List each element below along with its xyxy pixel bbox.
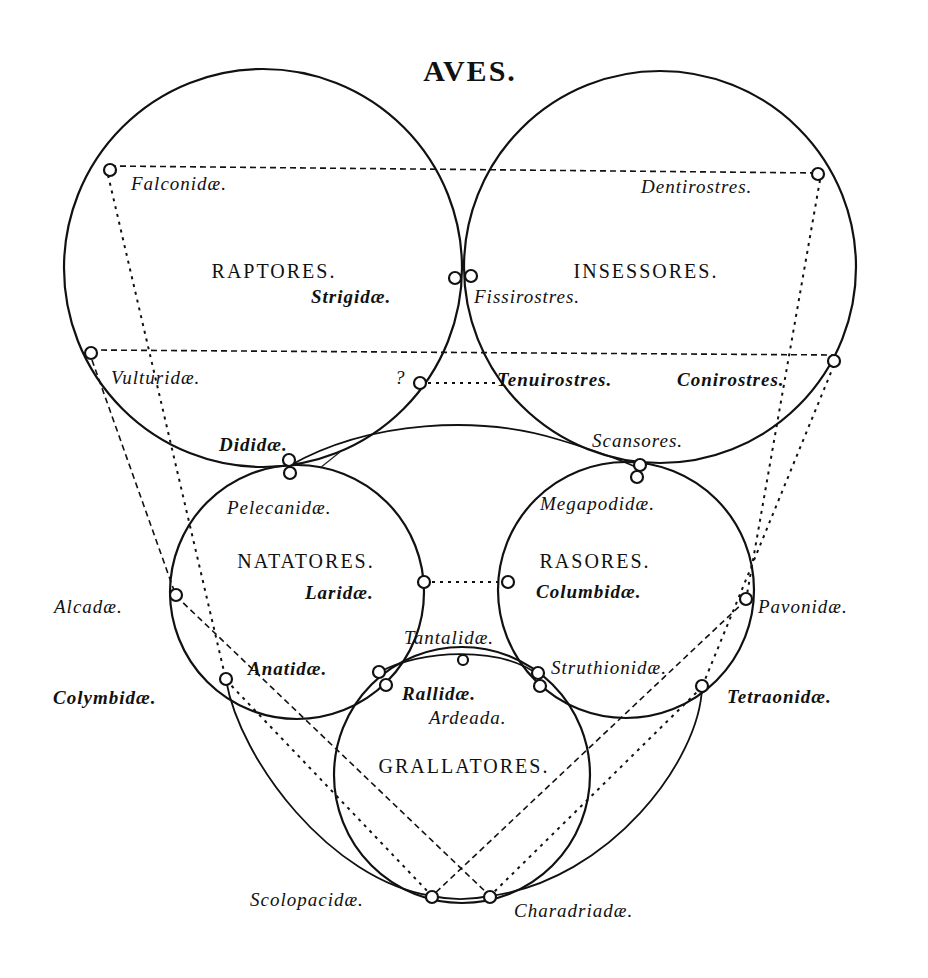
falconidae-dentirostres-line bbox=[110, 166, 818, 173]
colymbidae-node bbox=[220, 673, 232, 685]
label-megapodidae: Megapodidæ. bbox=[539, 493, 655, 514]
label-scansores: Scansores. bbox=[592, 430, 683, 451]
tetraonidae-charadriadae-arc bbox=[490, 687, 702, 896]
conirostres-tetraonidae-line bbox=[702, 365, 834, 687]
label-strigidae: Strigidæ. bbox=[311, 286, 391, 307]
vulturidae-node bbox=[85, 347, 97, 359]
label-scolopacidae: Scolopacidæ. bbox=[250, 889, 364, 910]
tantalidae-node bbox=[458, 655, 468, 665]
dentirostres-pavonidae-line bbox=[746, 180, 820, 600]
scolopacidae-node bbox=[426, 891, 438, 903]
diagram-title: AVES. bbox=[423, 54, 517, 87]
label-columbidae: Columbidæ. bbox=[536, 581, 642, 602]
conirostres-node bbox=[828, 355, 840, 367]
label-vulturidae: Vulturidæ. bbox=[111, 367, 200, 388]
label-conirostres: Conirostres. bbox=[677, 369, 785, 390]
order-raptores: RAPTORES. bbox=[212, 260, 337, 282]
alcadae-node bbox=[170, 589, 182, 601]
tetraonidae-charadriadae-line bbox=[490, 687, 702, 896]
struthionidae-node bbox=[532, 667, 544, 679]
label-dididae: Dididæ. bbox=[218, 434, 288, 455]
label-rallidae: Rallidæ. bbox=[401, 683, 476, 704]
order-insessores: INSESSORES. bbox=[574, 260, 719, 282]
label-tenuirostres: Tenuirostres. bbox=[497, 369, 612, 390]
dididae-scansores-arc bbox=[289, 425, 638, 468]
laridae-node bbox=[418, 576, 430, 588]
strigidae-node bbox=[449, 272, 461, 284]
pelecanidae-node bbox=[284, 467, 296, 479]
falconidae-node bbox=[104, 164, 116, 176]
label-ardeada: Ardeada. bbox=[427, 707, 506, 728]
label-alcadae: Alcadæ. bbox=[52, 596, 123, 617]
falconidae-colymbidae-line bbox=[108, 175, 226, 680]
question-node bbox=[414, 377, 426, 389]
rallidae-node bbox=[380, 679, 392, 691]
label-tantalidae: Tantalidæ. bbox=[404, 627, 494, 648]
megapodidae-node bbox=[631, 471, 643, 483]
label-struthionidae: Struthionidæ. bbox=[551, 657, 667, 678]
label-charadriadae: Charadriadæ. bbox=[514, 900, 633, 921]
label-fissirostres: Fissirostres. bbox=[473, 286, 580, 307]
order-natatores: NATATORES. bbox=[237, 550, 375, 572]
fissirostres-node bbox=[465, 270, 477, 282]
anatidae-node bbox=[373, 666, 385, 678]
label-colymbidae: Colymbidæ. bbox=[53, 687, 156, 708]
label-pavonidae: Pavonidæ. bbox=[757, 596, 848, 617]
vulturidae-alcadae-line bbox=[92, 360, 176, 596]
charadriadae-node bbox=[484, 891, 496, 903]
pavonidae-node bbox=[740, 593, 752, 605]
vulturidae-conirostres-line bbox=[91, 350, 834, 355]
ardeada-node bbox=[534, 680, 546, 692]
aves-classification-diagram: AVES. RAPTORES. INSESSORES. N bbox=[0, 0, 928, 978]
tetraonidae-node bbox=[696, 680, 708, 692]
order-rasores: RASORES. bbox=[539, 550, 650, 572]
dididae-node bbox=[283, 454, 295, 466]
label-laridae: Laridæ. bbox=[304, 582, 374, 603]
scansores-node bbox=[634, 459, 646, 471]
label-question: ? bbox=[395, 367, 406, 388]
order-grallatores: GRALLATORES. bbox=[379, 755, 550, 777]
label-falconidae: Falconidæ. bbox=[130, 173, 227, 194]
columbidae-node bbox=[502, 576, 514, 588]
label-pelecanidae: Pelecanidæ. bbox=[226, 497, 331, 518]
dentirostres-node bbox=[812, 168, 824, 180]
label-anatidae: Anatidæ. bbox=[247, 658, 327, 679]
label-dentirostres: Dentirostres. bbox=[640, 176, 752, 197]
label-tetraonidae: Tetraonidæ. bbox=[727, 686, 832, 707]
bottom-connector-arc bbox=[432, 896, 490, 899]
